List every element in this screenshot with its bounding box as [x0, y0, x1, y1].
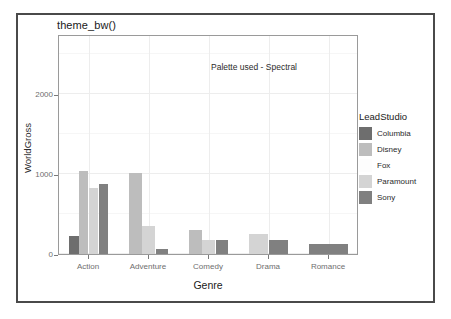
x-tick-mark — [148, 255, 149, 259]
x-tick-label: Adventure — [118, 262, 178, 271]
y-tick-label: 2000 — [20, 90, 53, 99]
bar — [99, 184, 108, 254]
legend-label: Disney — [377, 145, 401, 154]
gridline-horizontal — [59, 93, 357, 94]
bar — [309, 244, 348, 254]
x-tick-mark — [208, 255, 209, 259]
x-tick-label: Drama — [238, 262, 298, 271]
legend-item: Columbia — [359, 126, 416, 141]
y-tick-mark — [54, 95, 58, 96]
bar — [89, 188, 98, 254]
legend-label: Fox — [377, 161, 390, 170]
gridline-vertical — [329, 36, 330, 254]
x-axis-title: Genre — [58, 279, 358, 291]
legend-item: Paramount — [359, 174, 416, 189]
x-tick-mark — [328, 255, 329, 259]
legend-items: ColumbiaDisneyFoxParamountSony — [359, 126, 416, 205]
legend-label: Sony — [377, 193, 395, 202]
legend-label: Columbia — [377, 129, 411, 138]
gridline-vertical — [149, 36, 150, 254]
x-tick-mark — [88, 255, 89, 259]
x-tick-label: Comedy — [178, 262, 238, 271]
bar — [156, 249, 169, 254]
legend-item: Disney — [359, 142, 416, 157]
legend-item: Sony — [359, 190, 416, 205]
bar — [269, 240, 288, 254]
chart-title: theme_bw() — [57, 19, 116, 31]
x-tick-label: Action — [58, 262, 118, 271]
y-tick-mark — [54, 255, 58, 256]
y-tick-label: 0 — [20, 250, 53, 259]
gridline-horizontal-minor — [59, 53, 357, 54]
legend-title: LeadStudio — [359, 111, 416, 122]
plot-panel: Palette used - Spectral — [58, 35, 358, 255]
bar — [216, 240, 229, 254]
gridline-horizontal — [59, 173, 357, 174]
legend-swatch — [359, 175, 372, 188]
gridline-horizontal-minor — [59, 133, 357, 134]
legend-swatch — [359, 143, 372, 156]
legend-swatch — [359, 159, 372, 172]
chart-figure: theme_bw() Palette used - Spectral 01000… — [0, 0, 451, 319]
legend-swatch — [359, 191, 372, 204]
bar — [189, 230, 202, 254]
bar — [249, 234, 268, 254]
bar — [202, 240, 215, 254]
bar — [69, 236, 78, 254]
bar — [129, 173, 142, 254]
bar — [142, 226, 155, 254]
y-axis-title: WorldGross — [22, 123, 33, 173]
chart-legend: LeadStudio ColumbiaDisneyFoxParamountSon… — [359, 111, 416, 206]
x-tick-label: Romance — [298, 262, 358, 271]
gridline-vertical — [209, 36, 210, 254]
legend-swatch — [359, 127, 372, 140]
y-tick-mark — [54, 175, 58, 176]
legend-label: Paramount — [377, 177, 416, 186]
plot-annotation: Palette used - Spectral — [211, 62, 297, 72]
bar — [79, 171, 88, 254]
legend-item: Fox — [359, 158, 416, 173]
x-tick-mark — [268, 255, 269, 259]
